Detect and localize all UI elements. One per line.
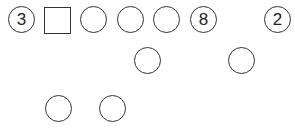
empty-circle[interactable] bbox=[153, 6, 180, 33]
circle-8: 8 bbox=[190, 6, 217, 33]
empty-circle[interactable] bbox=[99, 95, 126, 122]
circle-2: 2 bbox=[264, 6, 291, 33]
empty-circle[interactable] bbox=[80, 6, 107, 33]
empty-circle[interactable] bbox=[134, 47, 161, 74]
empty-circle[interactable] bbox=[228, 47, 255, 74]
empty-circle[interactable] bbox=[117, 6, 144, 33]
empty-circle[interactable] bbox=[45, 95, 72, 122]
empty-square[interactable] bbox=[44, 7, 71, 34]
circle-3: 3 bbox=[8, 6, 35, 33]
